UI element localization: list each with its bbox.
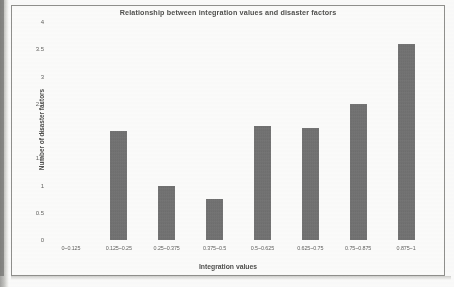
x-tick-label: 0.875~1 <box>382 245 430 251</box>
bar <box>110 131 127 240</box>
y-axis-label: Number of disaster factors <box>38 50 45 210</box>
scan-page-edge-dark <box>0 0 4 276</box>
plot-area <box>47 22 430 240</box>
bar-slot <box>239 22 287 240</box>
bar-slot <box>95 22 143 240</box>
y-axis-label-wrap: Number of disaster factors <box>22 40 23 41</box>
y-tick-label: 0.5 <box>14 210 44 216</box>
bar <box>350 104 367 240</box>
x-axis-label: Integration values <box>11 263 445 270</box>
figure-page: Relationship between integration values … <box>0 0 454 287</box>
y-tick-label: 4 <box>14 19 44 25</box>
bar <box>206 199 223 240</box>
scan-bottom-smudge <box>11 276 451 280</box>
x-tick-label: 0.125~0.25 <box>95 245 143 251</box>
x-axis-ticks: 0~0.1250.125~0.250.25~0.3750.375~0.50.5~… <box>47 245 430 251</box>
bar-slot <box>286 22 334 240</box>
bar <box>254 126 271 240</box>
bar-slot <box>143 22 191 240</box>
bar-slot <box>191 22 239 240</box>
bar-slot <box>382 22 430 240</box>
x-tick-label: 0.5~0.625 <box>239 245 287 251</box>
bar <box>302 128 319 240</box>
x-tick-label: 0.25~0.375 <box>143 245 191 251</box>
chart-title: Relationship between integration values … <box>11 8 445 17</box>
y-tick-label: 0 <box>14 237 44 243</box>
bar-series <box>47 22 430 240</box>
bar <box>158 186 175 241</box>
x-tick-label: 0.75~0.875 <box>334 245 382 251</box>
bar-slot <box>334 22 382 240</box>
bar-slot <box>47 22 95 240</box>
x-tick-label: 0~0.125 <box>47 245 95 251</box>
x-tick-label: 0.625~0.75 <box>286 245 334 251</box>
bar <box>398 44 415 240</box>
x-tick-label: 0.375~0.5 <box>191 245 239 251</box>
